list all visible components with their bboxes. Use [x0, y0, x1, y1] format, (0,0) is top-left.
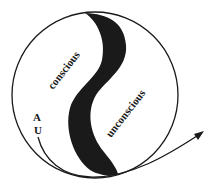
label-u: U [34, 124, 42, 136]
trajectory-curve [38, 134, 200, 177]
label-a: A [33, 111, 41, 123]
conscious-unconscious-diagram: conscious unconscious A U [0, 0, 212, 191]
s-band [68, 13, 126, 175]
label-conscious: conscious [45, 48, 82, 91]
arrowhead-icon [194, 131, 204, 140]
label-unconscious: unconscious [103, 86, 148, 139]
